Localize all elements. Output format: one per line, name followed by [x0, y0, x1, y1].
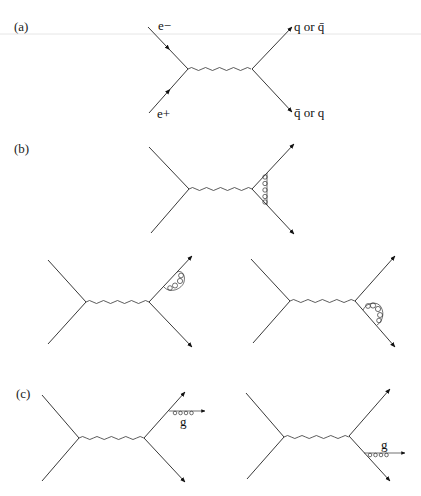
photon-propagator: [284, 436, 349, 439]
photon-propagator: [290, 300, 355, 303]
incoming-line-top: [48, 260, 86, 302]
label-gluon: g: [180, 414, 187, 429]
outgoing-quark-line-top: [252, 144, 294, 189]
diagram-vertex-correction: [149, 144, 294, 234]
panel-label-a: (a): [14, 19, 28, 34]
outgoing-quark-line-top: [349, 389, 390, 436]
feynman-diagram-figure: (a) e− e+ q or q̄ q̄ or q (b): [0, 0, 421, 496]
emitted-gluon: [364, 453, 405, 457]
gluon-loop: [164, 271, 184, 290]
outgoing-quark-line-top: [144, 392, 185, 438]
diagram-gluon-emission-quark: g: [42, 392, 205, 482]
outgoing-quark-line-bottom: [144, 438, 185, 482]
outgoing-quark-line-top: [149, 256, 192, 302]
diagram-self-energy-antiquark: [251, 256, 395, 347]
photon-propagator: [79, 437, 144, 440]
diagram-gluon-emission-antiquark: g: [246, 389, 405, 481]
photon-propagator: [189, 188, 252, 191]
incoming-line-top: [149, 147, 189, 189]
outgoing-quark-line-bottom: [252, 69, 292, 112]
incoming-line-top: [251, 259, 290, 301]
outgoing-quark-line-bottom: [355, 301, 395, 347]
incoming-line-top: [246, 393, 284, 437]
panel-c: (c) g: [16, 386, 405, 482]
incoming-line-bottom: [48, 302, 86, 344]
incoming-line-bottom: [253, 301, 290, 343]
incoming-line-bottom: [42, 438, 79, 481]
outgoing-quark-line-top: [355, 256, 395, 301]
label-positron: e+: [157, 106, 170, 121]
outgoing-quark-line-bottom: [252, 189, 294, 234]
outgoing-quark-line-bottom: [149, 302, 192, 347]
label-electron: e−: [158, 18, 171, 33]
panel-b: (b): [14, 141, 395, 347]
incoming-line-bottom: [247, 437, 284, 479]
incoming-line-top: [42, 395, 79, 438]
panel-label-c: (c): [16, 386, 30, 401]
label-outgoing-top: q or q̄: [294, 19, 325, 34]
electron-line: [148, 27, 188, 69]
photon-propagator: [86, 301, 149, 304]
diagram-lowest-order: e− e+ q or q̄ q̄ or q: [148, 18, 325, 121]
label-outgoing-bottom: q̄ or q: [294, 105, 325, 120]
emitted-gluon: [169, 411, 205, 415]
incoming-line-bottom: [151, 189, 189, 233]
photon-propagator: [188, 68, 251, 71]
panel-a: (a) e− e+ q or q̄ q̄ or q: [14, 18, 325, 121]
gluon-exchange: [263, 173, 267, 205]
outgoing-quark-line-top: [252, 27, 292, 69]
panel-label-b: (b): [14, 141, 29, 156]
diagram-self-energy-quark: [48, 256, 192, 347]
label-gluon: g: [381, 437, 388, 452]
